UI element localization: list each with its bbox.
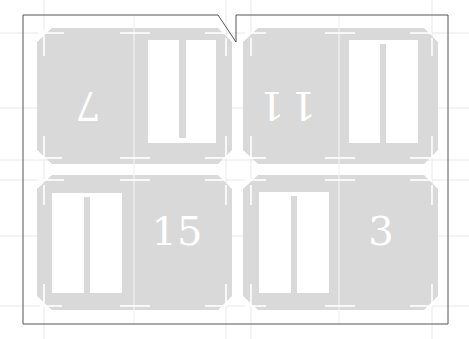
- slot-divider: [179, 40, 186, 138]
- slot-divider: [291, 196, 297, 293]
- card-number-top-left: 7: [66, 86, 110, 126]
- slot-divider: [380, 44, 386, 143]
- die-cut-sheet: 7 11 15 3: [0, 0, 469, 339]
- card-number-bottom-right: 3: [362, 211, 400, 251]
- card-number-top-right: 11: [266, 86, 316, 126]
- card-bottom-right: [243, 175, 438, 310]
- sheet-graphic: [0, 0, 469, 339]
- card-number-bottom-left: 15: [150, 211, 204, 251]
- slot-divider: [84, 197, 90, 293]
